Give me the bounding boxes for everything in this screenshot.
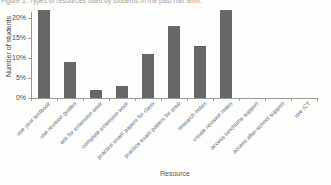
x-tick <box>135 98 136 101</box>
x-tick <box>109 98 110 101</box>
x-tick <box>83 98 84 101</box>
x-tick <box>265 98 266 101</box>
y-axis-line <box>31 12 32 98</box>
y-tick-label: 10% <box>0 54 26 62</box>
bar-chart-plot-area: 0%5%10%15%20%use your textbookuse revisi… <box>0 0 331 185</box>
x-tick <box>31 98 32 101</box>
bar <box>220 10 232 98</box>
y-tick-label: 20% <box>0 14 26 22</box>
x-tick <box>213 98 214 101</box>
y-tick <box>28 18 31 19</box>
x-axis-line <box>31 98 318 99</box>
figure: Figure 1: Types of resources used by stu… <box>0 0 331 185</box>
x-tick <box>239 98 240 101</box>
bar <box>90 90 102 98</box>
bar <box>168 26 180 98</box>
x-tick <box>187 98 188 101</box>
y-tick <box>28 38 31 39</box>
y-tick-label: 0% <box>0 94 26 102</box>
x-tick <box>317 98 318 101</box>
y-tick <box>28 58 31 59</box>
bar <box>64 62 76 98</box>
x-tick <box>57 98 58 101</box>
bar <box>194 46 206 98</box>
x-tick <box>161 98 162 101</box>
x-tick <box>291 98 292 101</box>
bar <box>142 54 154 98</box>
x-axis-title: Resource <box>110 170 240 177</box>
y-tick <box>28 78 31 79</box>
y-tick-label: 5% <box>0 74 26 82</box>
y-tick-label: 15% <box>0 34 26 42</box>
bar <box>116 86 128 98</box>
bar <box>38 10 50 98</box>
